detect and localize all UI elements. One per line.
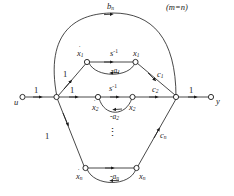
vertical-ellipsis: ⋮ <box>106 130 118 134</box>
label-bn: bn <box>107 2 114 11</box>
node-xdot2 <box>95 94 100 99</box>
node-xdotn <box>83 165 88 170</box>
signal-flow-graph-figure: bn (m=n) u y 1 1 1 ·x1 s-1 x1 -a1 1 c1 ·… <box>0 0 234 196</box>
label-xdotn: ·xn <box>76 172 83 181</box>
arrow-xn-to-right <box>154 129 159 138</box>
node-y <box>208 94 213 99</box>
label-gain-c2: c2 <box>152 85 159 94</box>
node-x1 <box>133 59 138 64</box>
label-gain-c1: c1 <box>157 70 164 79</box>
edge-feedback-a2 <box>99 98 132 112</box>
node-right-sum <box>173 94 178 99</box>
label-gain-sum-row2: 1 <box>70 86 74 95</box>
label-feedback-an: -an <box>110 173 119 181</box>
label-gain-output-1: 1 <box>189 86 193 95</box>
label-xdot2: ·x2 <box>92 103 99 112</box>
label-condition-m-equals-n: (m=n) <box>166 3 188 12</box>
arrow-x1-to-right <box>148 73 155 80</box>
label-xdot1: ·x1 <box>77 49 84 58</box>
label-gain-input-1: 1 <box>34 86 38 95</box>
label-gain-sum-row1: 1 <box>63 70 67 79</box>
label-x1: x1 <box>133 49 140 58</box>
label-feedback-a2: -a2 <box>110 113 119 121</box>
node-xdot1 <box>84 59 89 64</box>
label-gain-cn: cn <box>160 131 167 140</box>
label-x2: x2 <box>129 103 136 112</box>
graph-canvas <box>0 0 234 196</box>
label-gain-s-inverse-row2: s-1 <box>109 84 117 93</box>
label-gain-sum-rown: 1 <box>45 132 49 141</box>
label-node-u: u <box>14 98 18 107</box>
node-u <box>20 94 25 99</box>
label-feedback-a1: -a1 <box>111 67 120 75</box>
label-xn: xn <box>139 172 146 181</box>
label-gain-s-inverse-row1: s-1 <box>110 49 118 58</box>
node-xn <box>134 165 139 170</box>
arrow-to-xdotn <box>63 113 68 125</box>
arrow-feedback-a2 <box>114 109 122 110</box>
node-sum <box>54 94 59 99</box>
label-node-y: y <box>216 97 220 106</box>
edge-sum-to-xdotn <box>57 98 84 166</box>
node-x2 <box>130 94 135 99</box>
